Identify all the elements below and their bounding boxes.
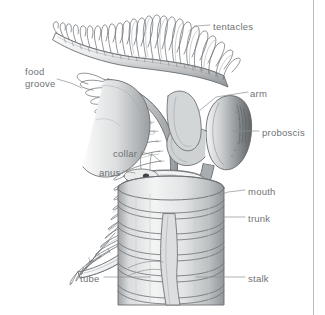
- collar-body: [83, 80, 150, 178]
- label-mouth: mouth: [248, 186, 276, 198]
- label-food-groove-line1: food: [25, 66, 45, 79]
- label-food-groove-line2: groove: [25, 78, 56, 91]
- diagram-canvas: [0, 0, 325, 315]
- label-tentacles: tentacles: [213, 21, 253, 33]
- label-proboscis: proboscis: [262, 127, 305, 139]
- label-anus: anus: [99, 167, 121, 179]
- label-arm: arm: [250, 88, 267, 100]
- label-stalk: stalk: [248, 273, 269, 285]
- label-tube: tube: [80, 273, 100, 285]
- leader-food-groove: [57, 79, 82, 88]
- label-trunk: trunk: [248, 213, 270, 225]
- label-collar: collar: [113, 148, 137, 160]
- page-edge-border: [313, 0, 314, 315]
- anatomy-diagram: tentacles food groove arm proboscis coll…: [0, 0, 325, 315]
